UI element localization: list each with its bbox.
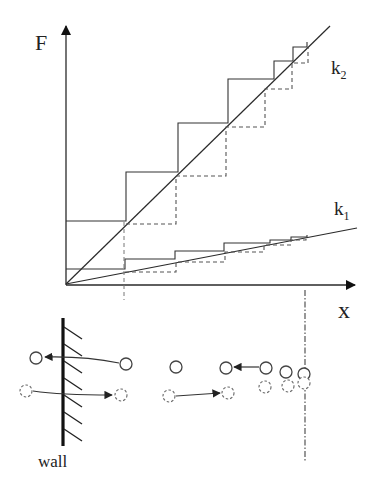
wall-hatching [64, 327, 82, 441]
k2-label: k2 [331, 57, 347, 82]
particle-dashed-1 [115, 389, 127, 401]
arrow-dashed-reflect-right [33, 391, 112, 395]
particle-dashed-3 [222, 387, 234, 399]
particle-dashed-4 [259, 381, 271, 393]
wall-label: wall [38, 452, 68, 471]
arrow-dashed-2-to-3 [176, 393, 220, 396]
arrow-solid-reflect-left [45, 357, 119, 363]
k1-dashed-staircase [125, 237, 306, 272]
particle-solid-2 [170, 361, 182, 373]
y-axis-label: F [35, 30, 47, 55]
x-axis-label: x [338, 297, 350, 323]
particle-dashed-5 [282, 380, 294, 392]
particle-dashed-6 [298, 377, 310, 389]
particle-solid-5 [280, 366, 292, 378]
particle-solid-mirror [30, 352, 42, 364]
axes: F x [35, 26, 355, 323]
particle-solid-4 [260, 362, 272, 374]
force-displacement-diagram: F x k2 k1 wall [0, 0, 375, 493]
particle-dashed-2 [163, 390, 175, 402]
k2-group: k2 [66, 26, 347, 284]
particle-solid-1 [120, 358, 132, 370]
k1-label: k1 [334, 198, 350, 223]
k1-solid-staircase [66, 235, 307, 269]
k2-solid-staircase [66, 42, 307, 221]
particle-dashed-mirror [20, 385, 32, 397]
particle-solid-3 [220, 362, 232, 374]
k1-line [66, 228, 357, 284]
